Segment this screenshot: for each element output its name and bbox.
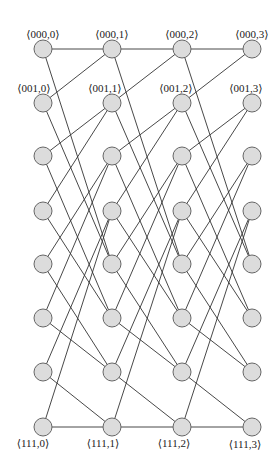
node [173,94,191,112]
label-111-2: ⟨111,2⟩ [158,437,191,450]
edge [182,103,252,264]
node [173,418,191,436]
node [103,309,121,327]
edge [182,372,252,427]
edge [43,156,112,264]
label-000-1: ⟨000,1⟩ [95,28,128,41]
edge [43,372,112,427]
edge [182,211,252,372]
label-111-0: ⟨111,0⟩ [17,437,50,450]
node [103,363,121,381]
node [243,255,261,273]
edge [112,211,182,372]
node [173,309,191,327]
node [34,309,52,327]
label-001-0: ⟨001,0⟩ [17,82,50,95]
node [103,418,121,436]
butterfly-network-diagram [0,0,276,474]
edge [112,103,182,211]
label-000-2: ⟨000,2⟩ [165,28,198,41]
node [34,94,52,112]
edge [43,103,112,156]
edge [112,318,182,372]
label-001-1: ⟨001,1⟩ [88,82,121,95]
node [243,40,261,58]
edge [182,156,252,264]
label-001-3: ⟨001,3⟩ [229,82,262,95]
edge [112,103,182,264]
node [34,363,52,381]
edge [182,318,252,372]
edge [43,211,112,427]
node [103,255,121,273]
label-001-2: ⟨001,2⟩ [159,82,192,95]
edge [43,103,112,211]
node [243,202,261,220]
label-000-0: ⟨000,0⟩ [26,28,59,41]
node [103,202,121,220]
node [173,363,191,381]
edge [112,211,182,427]
edge [43,211,112,318]
edge [182,103,252,156]
node [103,94,121,112]
node [243,363,261,381]
edge [112,156,182,264]
edge [43,211,112,372]
node [173,40,191,58]
node [173,255,191,273]
node [103,147,121,165]
edge [182,211,252,318]
label-111-1: ⟨111,1⟩ [87,437,120,450]
node [173,202,191,220]
node [34,418,52,436]
edge [182,103,252,211]
node [34,147,52,165]
node [34,202,52,220]
edge [43,103,112,264]
edge [112,372,182,427]
node [243,418,261,436]
node [243,147,261,165]
edge [182,211,252,427]
edges [43,49,252,427]
node [34,255,52,273]
edge [112,103,182,156]
label-000-3: ⟨000,3⟩ [235,28,268,41]
label-111-3: ⟨111,3⟩ [229,438,262,451]
node [103,40,121,58]
node [34,40,52,58]
edge [43,318,112,372]
node [243,309,261,327]
node [243,94,261,112]
edge [112,211,182,318]
node [173,147,191,165]
